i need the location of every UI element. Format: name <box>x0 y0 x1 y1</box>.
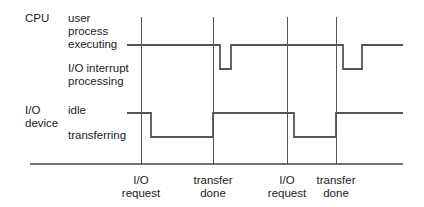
event-label-io-request-1: I/O request <box>116 174 166 200</box>
io-waveform <box>127 113 403 137</box>
event-markers <box>142 17 337 164</box>
cpu-waveform <box>127 45 403 69</box>
event-label-io-request-2: I/O request <box>262 174 312 200</box>
event-label-transfer-done-2: transfer done <box>311 174 361 200</box>
event-label-transfer-done-1: transfer done <box>188 174 238 200</box>
